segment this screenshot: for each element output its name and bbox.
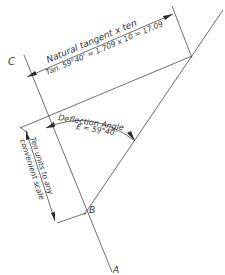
arrowhead-icon bbox=[27, 71, 37, 77]
point-label-c: C bbox=[8, 56, 15, 67]
point-label-a: A bbox=[112, 265, 119, 275]
arrowhead-icon bbox=[163, 14, 173, 20]
arrowhead-icon bbox=[51, 212, 55, 221]
tangent-offset-line bbox=[20, 56, 192, 128]
extension-line-right bbox=[172, 6, 192, 58]
deflection-angle-diagram: C B A Natural tangent x ten Tan. 59°40' … bbox=[0, 0, 225, 275]
arrowhead-icon bbox=[46, 122, 55, 128]
extension-tick bbox=[20, 127, 28, 133]
perpendicular-at-b bbox=[57, 213, 86, 223]
point-label-b: B bbox=[89, 205, 95, 215]
